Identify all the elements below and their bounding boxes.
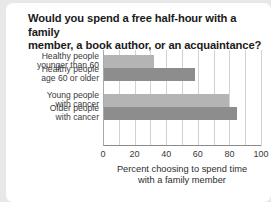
category-label-line: with cancer (6, 113, 99, 123)
x-axis-tick-labels: 020406080100 (103, 149, 261, 161)
x-axis-title-line-2: with a family member (94, 175, 270, 186)
x-axis-title: Percent choosing to spend time with a fa… (94, 164, 270, 187)
chart-title: Would you spend a free half-hour with a … (28, 12, 266, 53)
y-axis-category-labels: Healthy peopleyounger than 60Healthy peo… (6, 50, 99, 146)
chart-title-line-1: Would you spend a free half-hour with a … (28, 12, 266, 39)
gridline (261, 50, 262, 146)
x-axis-title-line-1: Percent choosing to spend time (94, 164, 270, 175)
plot-area (103, 50, 261, 146)
category-label-1: Healthy peopleage 60 or older (6, 65, 99, 84)
category-label-3: Older peoplewith cancer (6, 104, 99, 123)
plot-frame (103, 50, 261, 146)
x-tick-label-80: 80 (224, 149, 234, 159)
x-tick-label-0: 0 (100, 149, 105, 159)
x-tick-label-100: 100 (253, 149, 268, 159)
x-tick-label-60: 60 (193, 149, 203, 159)
x-tick-label-40: 40 (161, 149, 171, 159)
x-tick-label-20: 20 (130, 149, 140, 159)
chart-card: Would you spend a free half-hour with a … (6, 3, 271, 202)
category-label-line: age 60 or older (6, 74, 99, 84)
